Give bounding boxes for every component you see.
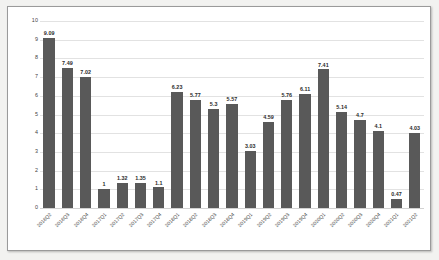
- bar-value-label: 1.32: [117, 176, 128, 181]
- x-axis-slot: 2021Q2: [406, 210, 424, 250]
- x-axis-slot: 2020Q4: [369, 210, 387, 250]
- bar-slot: 1.35: [131, 21, 149, 208]
- bar[interactable]: [98, 189, 109, 208]
- x-axis-tick-label: 2016Q2: [36, 212, 52, 228]
- gridline: [40, 208, 424, 209]
- bar-slot: 5.14: [333, 21, 351, 208]
- y-axis-tick: 1: [16, 187, 38, 192]
- bar-slot: 7.49: [58, 21, 76, 208]
- x-axis-slot: 2018Q2: [186, 210, 204, 250]
- bar[interactable]: [80, 77, 91, 208]
- y-axis-tick: 6: [16, 93, 38, 98]
- bar[interactable]: [135, 183, 146, 208]
- x-axis-slot: 2016Q2: [40, 210, 58, 250]
- bar-slot: 1: [95, 21, 113, 208]
- x-axis-slot: 2018Q4: [223, 210, 241, 250]
- bar-slot: 5.76: [278, 21, 296, 208]
- bar-value-label: 6.23: [172, 85, 183, 90]
- bar-value-label: 7.41: [318, 63, 329, 68]
- x-axis: 2016Q22016Q32016Q42017Q12017Q22017Q32017…: [40, 210, 424, 250]
- x-axis-slot: 2020Q3: [351, 210, 369, 250]
- bar-value-label: 5.77: [190, 93, 201, 98]
- x-axis-slot: 2019Q3: [278, 210, 296, 250]
- bar-value-label: 1.1: [155, 181, 163, 186]
- x-axis-slot: 2018Q1: [168, 210, 186, 250]
- bar-value-label: 5.76: [281, 93, 292, 98]
- bar-slot: 9.09: [40, 21, 58, 208]
- bar[interactable]: [299, 94, 310, 208]
- bar-value-label: 7.02: [80, 70, 91, 75]
- bar[interactable]: [43, 38, 54, 208]
- bar-value-label: 0.47: [391, 192, 402, 197]
- bar[interactable]: [281, 100, 292, 208]
- bar-slot: 1.32: [113, 21, 131, 208]
- bar[interactable]: [373, 131, 384, 208]
- x-axis-slot: 2018Q3: [205, 210, 223, 250]
- bar-slot: 7.02: [77, 21, 95, 208]
- bar-slot: 5.57: [223, 21, 241, 208]
- bar-slot: 0.47: [387, 21, 405, 208]
- bar[interactable]: [245, 151, 256, 208]
- y-axis-tick: 4: [16, 130, 38, 135]
- bar[interactable]: [263, 122, 274, 208]
- x-axis-slot: 2021Q1: [387, 210, 405, 250]
- bar-value-label: 4.59: [263, 115, 274, 120]
- bar[interactable]: [409, 133, 420, 208]
- x-axis-slot: 2017Q1: [95, 210, 113, 250]
- bar[interactable]: [117, 183, 128, 208]
- bar-value-label: 3.03: [245, 144, 256, 149]
- y-axis-tick: 10: [16, 18, 38, 23]
- x-axis-slot: 2020Q2: [333, 210, 351, 250]
- bar[interactable]: [336, 112, 347, 208]
- x-axis-slot: 2016Q4: [77, 210, 95, 250]
- bar-slot: 5.3: [205, 21, 223, 208]
- bar[interactable]: [62, 68, 73, 208]
- bar[interactable]: [354, 120, 365, 208]
- x-axis-slot: 2019Q1: [241, 210, 259, 250]
- y-axis: 109876543210: [16, 21, 38, 208]
- x-axis-slot: 2017Q2: [113, 210, 131, 250]
- x-axis-slot: 2019Q4: [296, 210, 314, 250]
- bar-value-label: 4.7: [356, 113, 364, 118]
- y-axis-tick: 0: [16, 205, 38, 210]
- y-axis-tick: 9: [16, 37, 38, 42]
- x-axis-slot: 2017Q4: [150, 210, 168, 250]
- x-axis-slot: 2019Q2: [259, 210, 277, 250]
- bar-slot: 4.1: [369, 21, 387, 208]
- bar-value-label: 5.3: [210, 102, 218, 107]
- bar-value-label: 4.1: [374, 124, 382, 129]
- bar-slot: 6.23: [168, 21, 186, 208]
- bar-value-label: 5.57: [227, 97, 238, 102]
- bar-slot: 4.59: [259, 21, 277, 208]
- bar-value-label: 1: [102, 182, 105, 187]
- bar[interactable]: [391, 199, 402, 208]
- bar-slot: 1.1: [150, 21, 168, 208]
- bar[interactable]: [171, 92, 182, 209]
- bar-value-label: 9.09: [44, 31, 55, 36]
- bar[interactable]: [190, 100, 201, 208]
- bar[interactable]: [153, 187, 164, 208]
- bar-slot: 6.11: [296, 21, 314, 208]
- x-axis-slot: 2020Q1: [314, 210, 332, 250]
- bar-slot: 5.77: [186, 21, 204, 208]
- bar-series: 9.097.497.0211.321.351.16.235.775.35.573…: [40, 21, 424, 208]
- chart-card: 109876543210 9.097.497.0211.321.351.16.2…: [7, 6, 431, 251]
- bar-value-label: 5.14: [336, 105, 347, 110]
- x-axis-slot: 2017Q3: [131, 210, 149, 250]
- y-axis-tick: 3: [16, 149, 38, 154]
- y-axis-tick: 2: [16, 168, 38, 173]
- chart-screenshot: 109876543210 9.097.497.0211.321.351.16.2…: [0, 0, 439, 260]
- y-axis-tick: 5: [16, 112, 38, 117]
- bar-slot: 7.41: [314, 21, 332, 208]
- y-axis-tick: 7: [16, 74, 38, 79]
- bar[interactable]: [208, 109, 219, 208]
- bar[interactable]: [318, 69, 329, 208]
- y-axis-tick: 8: [16, 56, 38, 61]
- chart-plot-wrapper: 109876543210 9.097.497.0211.321.351.16.2…: [8, 7, 432, 252]
- bar-value-label: 6.11: [300, 87, 310, 92]
- x-axis-slot: 2016Q3: [58, 210, 76, 250]
- plot-area: 9.097.497.0211.321.351.16.235.775.35.573…: [40, 21, 424, 208]
- bar-slot: 4.03: [406, 21, 424, 208]
- bar[interactable]: [226, 104, 237, 208]
- bar-slot: 3.03: [241, 21, 259, 208]
